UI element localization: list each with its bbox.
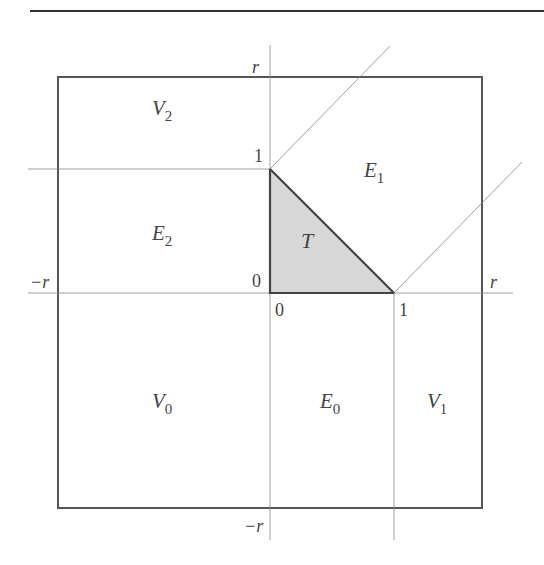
- label-bottom-neg-r: −r: [244, 516, 264, 536]
- label-right-r: r: [490, 272, 498, 292]
- diagonal-upper: [270, 46, 390, 169]
- region-T: T: [301, 228, 315, 253]
- tick-y-zero: 0: [252, 271, 261, 291]
- region-V2: V2: [152, 96, 172, 124]
- label-left-neg-r: −r: [30, 272, 50, 292]
- diagram-canvas: r −r −r r 1 0 0 1 V2 E1 E2 T V0 E0 V1: [0, 0, 544, 565]
- region-E1: E1: [363, 158, 384, 186]
- region-V0: V0: [152, 389, 172, 417]
- region-E0: E0: [319, 389, 340, 417]
- tick-y-one: 1: [254, 146, 263, 166]
- tick-x-one: 1: [399, 300, 408, 320]
- label-top-r: r: [252, 57, 260, 77]
- region-E2: E2: [151, 221, 172, 249]
- diagonal-lower: [394, 162, 522, 293]
- tick-x-zero: 0: [275, 300, 284, 320]
- region-V1: V1: [427, 389, 447, 417]
